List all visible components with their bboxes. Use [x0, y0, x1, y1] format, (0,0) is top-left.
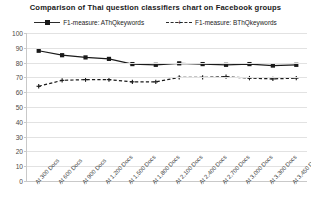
y-tick-mark — [24, 122, 27, 123]
y-tick-label: 0 — [19, 178, 23, 185]
gridline — [27, 137, 307, 138]
gridline — [27, 63, 307, 64]
y-tick-mark — [24, 63, 27, 64]
legend-item-athqkeywords: F1-measure: AThQkeywords — [34, 19, 144, 26]
data-point-marker — [130, 80, 134, 84]
y-tick-mark — [24, 92, 27, 93]
y-tick-label: 20 — [16, 148, 23, 155]
data-point-marker — [60, 53, 64, 57]
y-tick-mark — [24, 33, 27, 34]
y-tick-label: 30 — [16, 133, 23, 140]
y-tick-mark — [24, 166, 27, 167]
legend-key-dashed-cross-icon: + — [166, 19, 192, 26]
y-tick-label: 50 — [16, 104, 23, 111]
y-tick-label: 40 — [16, 118, 23, 125]
y-tick-mark — [24, 77, 27, 78]
y-tick-label: 10 — [16, 163, 23, 170]
data-point-marker — [83, 55, 87, 59]
chart-container: Comparison of Thai question classifiers … — [0, 0, 311, 223]
gridline — [27, 92, 307, 93]
gridline — [27, 151, 307, 152]
x-axis-labels: At 300 DocsAt 600 DocsAt 900 DocsAt 1,20… — [26, 181, 307, 223]
legend-item-bthqkeywords: + F1-measure: BThQkeywords — [166, 19, 277, 26]
y-tick-mark — [24, 48, 27, 49]
data-point-marker — [154, 80, 158, 84]
data-point-marker — [37, 84, 41, 88]
y-tick-mark — [24, 151, 27, 152]
y-tick-label: 70 — [16, 74, 23, 81]
data-point-marker — [37, 49, 41, 53]
gridline — [27, 48, 307, 49]
legend-label-athqkeywords: F1-measure: AThQkeywords — [63, 19, 144, 26]
y-tick-mark — [24, 107, 27, 108]
y-tick-label: 60 — [16, 89, 23, 96]
data-point-marker — [60, 78, 64, 82]
data-point-marker — [271, 63, 275, 67]
data-point-marker — [107, 57, 111, 61]
legend-label-bthqkeywords: F1-measure: BThQkeywords — [195, 19, 277, 26]
y-tick-mark — [24, 137, 27, 138]
gridline — [27, 33, 307, 34]
gridline — [27, 122, 307, 123]
gridline — [27, 107, 307, 108]
y-axis: 1009080706050403020100 — [0, 33, 26, 181]
gridline — [27, 77, 307, 78]
y-tick-label: 100 — [12, 30, 23, 37]
legend-key-solid-square-icon — [34, 19, 60, 26]
y-tick-label: 80 — [16, 59, 23, 66]
y-tick-label: 90 — [16, 44, 23, 51]
chart-title: Comparison of Thai question classifiers … — [0, 3, 311, 12]
chart-legend: F1-measure: AThQkeywords + F1-measure: B… — [0, 19, 311, 26]
